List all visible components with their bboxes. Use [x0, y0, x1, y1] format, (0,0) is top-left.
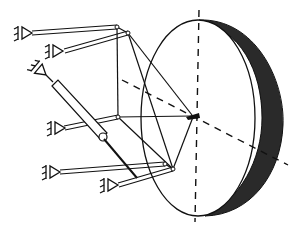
hexapod-dish-diagram: Hexapod-mounted dish mechanism — [0, 0, 301, 233]
ground-anchors — [14, 26, 118, 193]
actuator-rod — [104, 139, 137, 178]
ground-anchor-icon — [14, 26, 32, 41]
ground-anchor-icon — [100, 178, 118, 193]
dish — [141, 20, 283, 216]
ground-anchor-icon — [27, 58, 50, 81]
ground-anchor-icon — [45, 44, 63, 59]
ground-anchor-icon — [42, 165, 60, 180]
ground-anchor-icon — [47, 121, 65, 136]
leg-2 — [64, 31, 128, 53]
leg-1 — [32, 25, 117, 35]
